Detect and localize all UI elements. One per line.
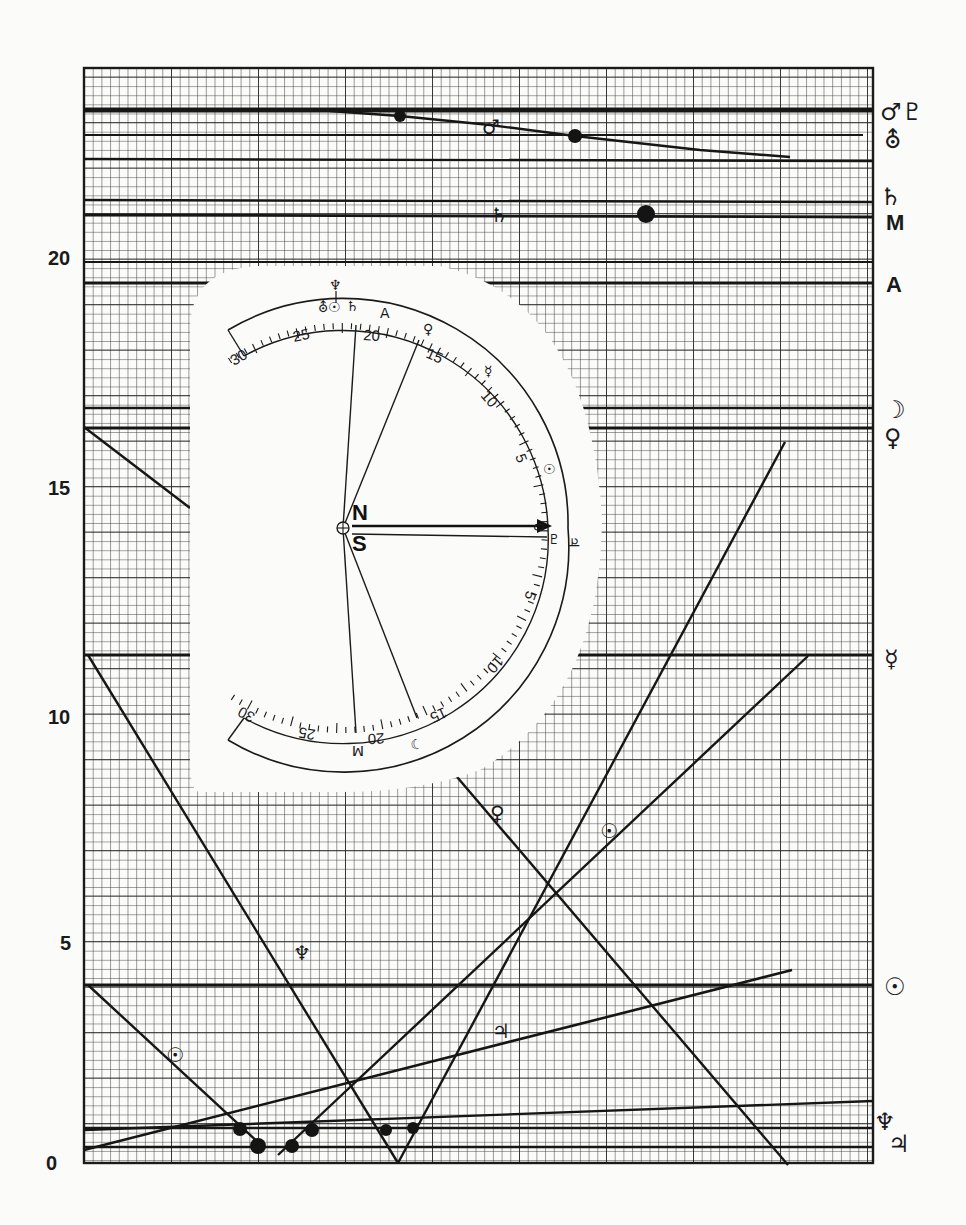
ephemeris-figure: N S 30 25 20 15 10 5 0 5 10 15 20 25 30 … [0, 0, 966, 1225]
right-labels: ♂♇ ⛢ ♄ M A ☽ ♀ ☿ ☉ ♆ ♃ [874, 98, 923, 1158]
venus-icon: ♀ [884, 424, 902, 452]
neptune-line-icon: ♆ [293, 941, 311, 965]
upper-scale-20: 20 [363, 326, 381, 344]
midheaven-dial-label: M [352, 743, 364, 759]
sun-small-dial-icon: ☉ [328, 299, 341, 315]
sun-line-icon: ☉ [600, 819, 618, 843]
sun-dial-icon: ☉ [543, 461, 556, 477]
pluto-dial-icon: ♇ [548, 531, 561, 547]
y-tick-0: 0 [46, 1152, 57, 1174]
mercury-icon: ☿ [884, 645, 899, 673]
saturn-dial-icon: ♄ [346, 298, 359, 314]
moon-icon: ☽ [884, 396, 906, 424]
y-tick-10: 10 [48, 706, 70, 728]
jupiter-dial-icon: ♃ [566, 536, 582, 549]
y-axis: 0 5 10 15 20 [46, 247, 71, 1174]
saturn-line-icon: ♄ [490, 203, 508, 227]
ascendant-dial-label: A [380, 305, 390, 321]
mars-line-icon: ♂ [482, 115, 500, 139]
y-tick-20: 20 [48, 247, 70, 269]
uranus-dial-icon: ⛢ [318, 299, 328, 315]
venus-line-icon: ♀ [490, 801, 505, 825]
neptune-dial-icon: ♆ [329, 277, 342, 293]
mercury-dial-icon: ☿ [484, 363, 493, 379]
south-label: S [352, 531, 367, 556]
upper-scale-25: 25 [291, 325, 311, 345]
y-tick-15: 15 [48, 477, 70, 499]
lower-scale-20: 20 [367, 730, 385, 748]
jupiter-icon: ♃ [888, 1130, 910, 1158]
sun-icon: ☉ [884, 973, 906, 1001]
y-tick-5: 5 [60, 932, 71, 954]
sun-left-line-icon: ☉ [166, 1043, 184, 1067]
scale-zero: 0 [531, 523, 548, 531]
jupiter-line-icon: ♃ [492, 1019, 510, 1043]
mars-pluto-icon: ♂♇ [880, 98, 923, 126]
ascendant-letter: A [886, 272, 902, 297]
uranus-icon: ⛢ [884, 126, 902, 154]
venus-dial-icon: ♀ [423, 321, 433, 337]
lower-scale-25: 25 [297, 724, 316, 744]
saturn-icon: ♄ [880, 183, 902, 211]
midheaven-letter: M [886, 210, 904, 235]
north-label: N [352, 500, 368, 525]
